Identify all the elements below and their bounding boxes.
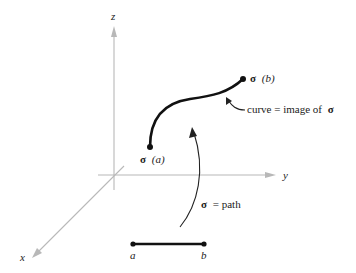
path-annotation: σ = path [201,198,241,210]
curve-annotation-sigma: σ [328,103,334,115]
path-annotation-sigma: σ [201,198,207,210]
interval-left-label: a [130,249,136,261]
y-axis-arrowhead [265,172,276,178]
sigma-a-symbol: σ [140,153,146,165]
x-axis-label: x [19,251,25,263]
mapping-arrowhead [189,127,197,138]
curve-image-of-sigma [150,79,243,147]
sigma-b-arg: (b) [262,72,275,85]
diagram-canvas: z y x σ (a) σ (b) curve = image of σ σ =… [0,0,356,273]
mapping-arrow [180,133,200,227]
sigma-b-symbol: σ [250,72,256,84]
curve-annotation-text: curve = image of [247,103,322,115]
curve-end-point [240,76,246,82]
path-annotation-text: = path [213,198,241,210]
interval-right-label: b [201,249,207,261]
sigma-a-label: σ (a) [140,153,165,166]
sigma-a-arg: (a) [152,153,165,166]
interval-right-endpoint [201,241,206,246]
sigma-b-label: σ (b) [250,72,275,85]
diagram-svg: z y x σ (a) σ (b) curve = image of σ σ =… [0,0,356,273]
z-axis-label: z [110,10,116,22]
y-axis-label: y [282,169,288,181]
interval-left-endpoint [130,241,135,246]
x-axis [35,166,124,255]
curve-start-point [147,144,153,150]
curve-annotation: curve = image of σ [247,103,334,115]
z-axis-arrowhead [111,26,117,37]
